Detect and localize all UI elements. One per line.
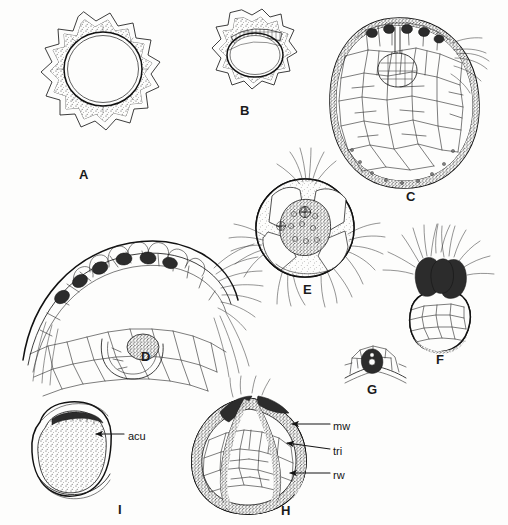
callout-label-tri: tri — [333, 446, 342, 457]
plate-artwork — [0, 0, 508, 525]
panel-d-artwork — [23, 241, 263, 396]
callout-label-mw: mw — [333, 421, 350, 432]
panel-f-artwork — [383, 224, 494, 354]
callout-label-rw: rw — [333, 470, 345, 481]
panel-letter-d: D — [141, 350, 151, 363]
callout-label-acu: acu — [128, 431, 146, 442]
panel-letter-f: F — [436, 353, 444, 366]
panel-g-artwork — [345, 346, 406, 383]
panel-letter-e: E — [303, 283, 312, 296]
panel-i-artwork — [32, 402, 111, 499]
panel-letter-b: B — [240, 104, 250, 117]
panel-a-artwork — [41, 12, 160, 130]
panel-letter-i: I — [118, 503, 122, 516]
panel-letter-a: A — [79, 168, 89, 181]
figure-plate: A B C D E F G H I acu mw tri rw — [0, 0, 508, 525]
panel-letter-g: G — [367, 383, 377, 396]
panel-h-artwork — [192, 376, 306, 514]
panel-letter-h: H — [281, 504, 291, 517]
panel-letter-c: C — [406, 190, 416, 203]
panel-c-artwork — [330, 18, 489, 188]
panel-b-artwork — [212, 9, 297, 89]
